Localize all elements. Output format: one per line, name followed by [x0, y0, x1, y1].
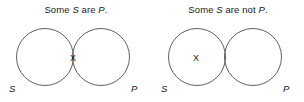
x-mark-overlap: X: [70, 54, 76, 63]
x-mark-subject-only: X: [193, 54, 199, 63]
set-label-predicate: P: [131, 84, 137, 94]
venn-panel-some-s-are-p: Some S are P. X S P: [0, 0, 152, 102]
title-suffix: .: [265, 4, 268, 15]
predicate-circle: [225, 29, 282, 86]
title-prefix: Some: [44, 4, 72, 15]
title-middle: are: [79, 4, 99, 15]
venn-panel-some-s-are-not-p: Some S are not P. X S P: [152, 0, 304, 102]
venn-diagram-figure: Some S are P. X S P Some S are not P. X …: [0, 0, 304, 102]
panel-title-some-s-are-p: Some S are P.: [0, 4, 152, 16]
panel-title-some-s-are-not-p: Some S are not P.: [152, 4, 304, 16]
set-label-subject: S: [9, 84, 15, 94]
set-label-predicate: P: [283, 84, 289, 94]
subject-circle: [17, 29, 74, 86]
predicate-circle: [73, 29, 130, 86]
title-suffix: .: [105, 4, 108, 15]
title-middle: are not: [223, 4, 259, 15]
set-label-subject: S: [161, 84, 167, 94]
venn-circles-right: [152, 20, 304, 98]
title-prefix: Some: [188, 4, 216, 15]
